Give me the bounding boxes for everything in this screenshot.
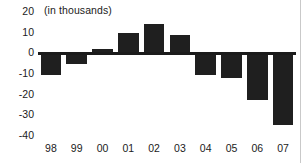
bar [118,33,139,54]
bar [273,53,294,124]
y-axis-tick-label: -30 [0,109,34,120]
y-axis-tick-label: 10 [0,27,34,38]
x-axis-tick-label: 06 [244,142,270,154]
x-axis-tick-label: 01 [115,142,141,154]
bar [144,24,165,53]
bar [41,53,62,75]
bar [247,53,268,100]
y-axis-tick-label: -10 [0,68,34,79]
x-axis-tick-label: 98 [38,142,64,154]
x-axis-tick-label: 99 [64,142,90,154]
page-edge-rule [300,0,301,163]
x-axis-tick-label: 02 [141,142,167,154]
x-axis-tick-label: 00 [90,142,116,154]
y-axis-tick-label: -40 [0,130,34,141]
x-axis-tick-label: 05 [219,142,245,154]
y-axis-tick-label: 0 [0,47,34,58]
y-axis-tick-label: 20 [0,6,34,17]
x-axis-tick-label: 07 [270,142,296,154]
bar [195,53,216,75]
x-axis-tick-label: 04 [193,142,219,154]
bar [221,53,242,78]
plot-area [38,0,296,138]
x-axis-tick-label: 03 [167,142,193,154]
zero-baseline [38,52,296,55]
bar-chart: (in thousands) 20100-10-20-30-40 9899000… [0,0,307,163]
y-axis-tick-label: -20 [0,89,34,100]
bar [170,35,191,54]
